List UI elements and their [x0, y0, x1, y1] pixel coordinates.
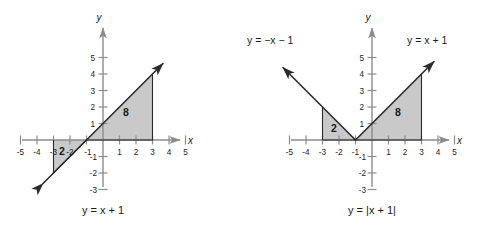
svg-text:1: 1 [90, 120, 95, 129]
svg-text:2: 2 [359, 103, 364, 112]
caption-right: y = |x + 1| [348, 204, 396, 216]
svg-text:1: 1 [117, 148, 122, 157]
upper-triangle-area: 8 [123, 106, 129, 118]
y-tick-labels: 5 4 3 2 1 -1 -2 -3 [359, 54, 367, 195]
svg-text:2: 2 [90, 103, 95, 112]
svg-text:4: 4 [359, 70, 364, 79]
lower-triangle-area: 2 [59, 145, 65, 157]
svg-text:-4: -4 [302, 148, 310, 157]
svg-text:5: 5 [183, 148, 188, 157]
panel-left: -5 -4 -3 -2 -1 1 2 3 4 5 5 4 3 2 1 -1 -2… [17, 12, 194, 216]
svg-text:3: 3 [150, 148, 155, 157]
svg-text:-3: -3 [319, 148, 327, 157]
svg-text:-2: -2 [335, 148, 343, 157]
svg-text:2: 2 [403, 148, 408, 157]
y-tick-labels: 5 4 3 2 1 -1 -2 -3 [90, 54, 98, 195]
svg-text:-2: -2 [66, 148, 74, 157]
svg-text:-3: -3 [50, 148, 58, 157]
figure-container: -5 -4 -3 -2 -1 1 2 3 4 5 5 4 3 2 1 -1 -2… [0, 0, 496, 225]
right-triangle-area: 8 [395, 106, 401, 118]
x-axis-label: x [456, 135, 463, 146]
y-axis-label: y [365, 12, 372, 23]
svg-text:5: 5 [90, 54, 95, 63]
x-axis-label: x [187, 135, 194, 146]
svg-text:5: 5 [452, 148, 457, 157]
svg-text:-4: -4 [33, 148, 41, 157]
svg-text:-3: -3 [90, 186, 98, 195]
svg-text:4: 4 [167, 148, 172, 157]
line-left-branch [283, 68, 356, 141]
svg-text:4: 4 [90, 70, 95, 79]
svg-text:3: 3 [90, 87, 95, 96]
left-triangle-area: 2 [331, 122, 337, 134]
right-branch-equation: y = x + 1 [407, 34, 447, 46]
svg-text:-5: -5 [17, 148, 25, 157]
svg-text:3: 3 [359, 87, 364, 96]
svg-text:5: 5 [359, 54, 364, 63]
svg-text:1: 1 [386, 148, 391, 157]
y-axis-label: y [96, 12, 103, 23]
svg-text:-3: -3 [359, 186, 367, 195]
svg-text:-1: -1 [90, 153, 98, 162]
svg-text:-5: -5 [286, 148, 294, 157]
svg-text:-1: -1 [359, 153, 367, 162]
svg-text:3: 3 [419, 148, 424, 157]
svg-text:4: 4 [436, 148, 441, 157]
svg-text:-2: -2 [90, 169, 98, 178]
svg-text:2: 2 [134, 148, 139, 157]
panel-right: -5 -4 -3 -2 -1 1 2 3 4 5 5 4 3 2 1 -1 -2… [247, 12, 463, 216]
caption-left: y = x + 1 [82, 204, 124, 216]
svg-text:-2: -2 [359, 169, 367, 178]
svg-text:1: 1 [359, 120, 364, 129]
left-branch-equation: y = −x − 1 [247, 34, 294, 46]
